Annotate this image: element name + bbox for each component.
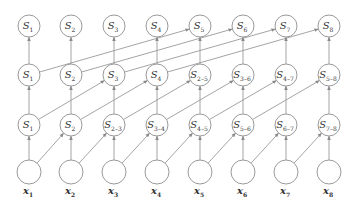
input-label: x4 [150, 185, 161, 198]
skip-edge [294, 133, 322, 163]
layer2-node: S2 [60, 64, 82, 86]
layer1-node: S7–8 [318, 114, 340, 136]
input-circle [17, 160, 41, 184]
input-circle [317, 160, 341, 184]
layer3-node: S2 [60, 15, 82, 37]
layer2-node: S2–5 [189, 64, 211, 86]
layer1-node: S2–3 [103, 114, 125, 136]
layer3-node: S6 [232, 15, 254, 37]
layer1-node: S6–7 [275, 114, 297, 136]
input-circle [274, 160, 298, 184]
input-node: x5 [188, 160, 212, 198]
layer2-node: S4 [146, 64, 168, 86]
input-circle [102, 160, 126, 184]
input-label: x6 [236, 185, 247, 198]
skip-edge [165, 133, 193, 163]
layer1-node: S2 [60, 114, 82, 136]
input-circle [231, 160, 255, 184]
layer3-node: S8 [318, 15, 340, 37]
skip-edge [37, 133, 64, 163]
input-circle [59, 160, 83, 184]
layer2-node: S3 [103, 64, 125, 86]
input-label: x3 [107, 185, 118, 198]
input-node: x4 [145, 160, 169, 198]
edges-group [29, 29, 329, 163]
prefix-scan-diagram: S1S2S2–3S3–4S4–5S5–6S6–7S7–8S1S2S3S4S2–5… [0, 0, 353, 208]
nodes-group: S1S2S2–3S3–4S4–5S5–6S6–7S7–8S1S2S3S4S2–5… [17, 15, 341, 198]
input-node: x3 [102, 160, 126, 198]
input-label: x1 [22, 185, 33, 198]
skip-edge [251, 133, 279, 163]
layer2-node: S1 [18, 64, 40, 86]
layer1-node: S4–5 [189, 114, 211, 136]
layer3-node: S3 [103, 15, 125, 37]
input-label: x8 [322, 185, 333, 198]
input-node: x8 [317, 160, 341, 198]
skip-edge [208, 133, 236, 163]
input-node: x1 [17, 160, 41, 198]
input-label: x2 [64, 185, 75, 198]
layer1-node: S1 [18, 114, 40, 136]
layer2-node: S5–8 [318, 64, 340, 86]
layer1-node: S3–4 [146, 114, 168, 136]
input-node: x6 [231, 160, 255, 198]
layer1-node: S5–6 [232, 114, 254, 136]
layer2-node: S3–6 [232, 64, 254, 86]
input-node: x7 [274, 160, 298, 198]
input-circle [145, 160, 169, 184]
input-label: x7 [279, 185, 290, 198]
input-node: x2 [59, 160, 83, 198]
layer2-node: S4–7 [275, 64, 297, 86]
skip-edge [122, 133, 150, 163]
layer3-node: S4 [146, 15, 168, 37]
input-label: x5 [193, 185, 204, 198]
skip-edge [79, 133, 107, 163]
input-circle [188, 160, 212, 184]
layer3-node: S5 [189, 15, 211, 37]
layer3-node: S7 [275, 15, 297, 37]
layer3-node: S1 [18, 15, 40, 37]
